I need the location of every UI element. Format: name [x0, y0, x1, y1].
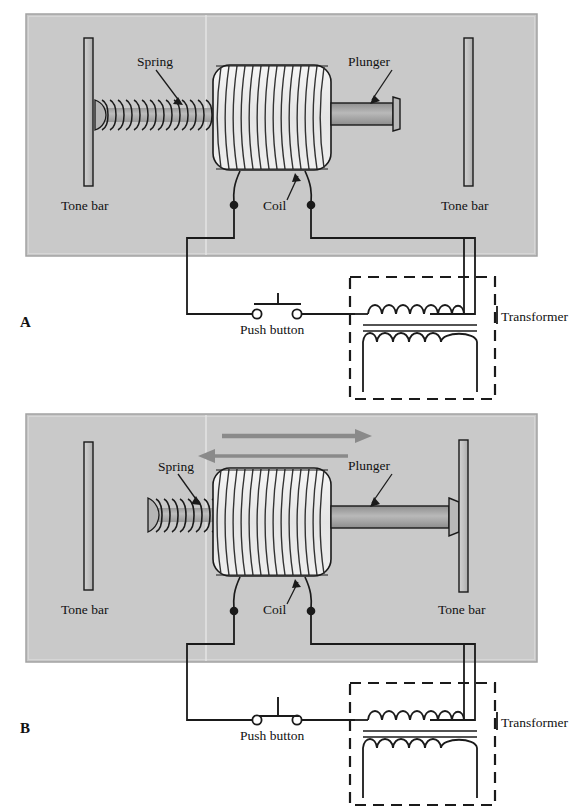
- terminal-dot-right: [307, 607, 316, 616]
- label-plunger: Plunger: [348, 458, 391, 473]
- tone-bar-right: [459, 440, 468, 592]
- push-button-terminal-left[interactable]: [252, 309, 261, 318]
- label-tone-bar-left: Tone bar: [61, 602, 109, 617]
- panel-b: Spring Plunger Coil Tone bar Tone bar Pu…: [0, 406, 587, 811]
- figure-root: Spring Plunger Coil Tone bar Tone bar Pu…: [0, 0, 587, 811]
- plunger-head: [449, 498, 459, 536]
- tone-bar-left: [84, 442, 93, 590]
- plunger-head: [393, 97, 400, 131]
- transformer-secondary-winding: [363, 739, 477, 798]
- push-button-terminal-right[interactable]: [292, 309, 301, 318]
- panel-b-drawing: Spring Plunger Coil Tone bar Tone bar Pu…: [0, 406, 587, 811]
- tone-bar-right: [464, 38, 473, 186]
- label-transformer: Transformer: [501, 715, 568, 730]
- panel-label-a: A: [20, 314, 31, 330]
- transformer-primary-winding: [368, 305, 464, 314]
- label-tone-bar-right: Tone bar: [441, 198, 489, 213]
- transformer-primary-winding: [368, 711, 464, 720]
- label-spring: Spring: [137, 54, 173, 69]
- transformer-enclosure: [350, 683, 495, 805]
- terminal-dot-right: [307, 201, 316, 210]
- tone-bar-left: [84, 38, 93, 186]
- label-transformer: Transformer: [501, 309, 568, 324]
- label-tone-bar-left: Tone bar: [61, 198, 109, 213]
- panel-label-b: B: [20, 720, 30, 736]
- transformer-enclosure: [350, 277, 495, 399]
- plunger: [331, 103, 393, 125]
- label-coil: Coil: [263, 198, 287, 213]
- label-push-button: Push button: [240, 728, 304, 743]
- panel-a: Spring Plunger Coil Tone bar Tone bar Pu…: [0, 0, 587, 405]
- label-coil: Coil: [263, 602, 287, 617]
- label-spring: Spring: [158, 459, 194, 474]
- label-tone-bar-right: Tone bar: [438, 602, 486, 617]
- panel-a-drawing: Spring Plunger Coil Tone bar Tone bar Pu…: [0, 0, 587, 405]
- label-push-button: Push button: [240, 322, 304, 337]
- terminal-dot-left: [230, 201, 239, 210]
- terminal-dot-left: [230, 607, 239, 616]
- transformer-secondary-winding: [363, 333, 477, 392]
- label-plunger: Plunger: [348, 54, 391, 69]
- plunger: [331, 506, 449, 528]
